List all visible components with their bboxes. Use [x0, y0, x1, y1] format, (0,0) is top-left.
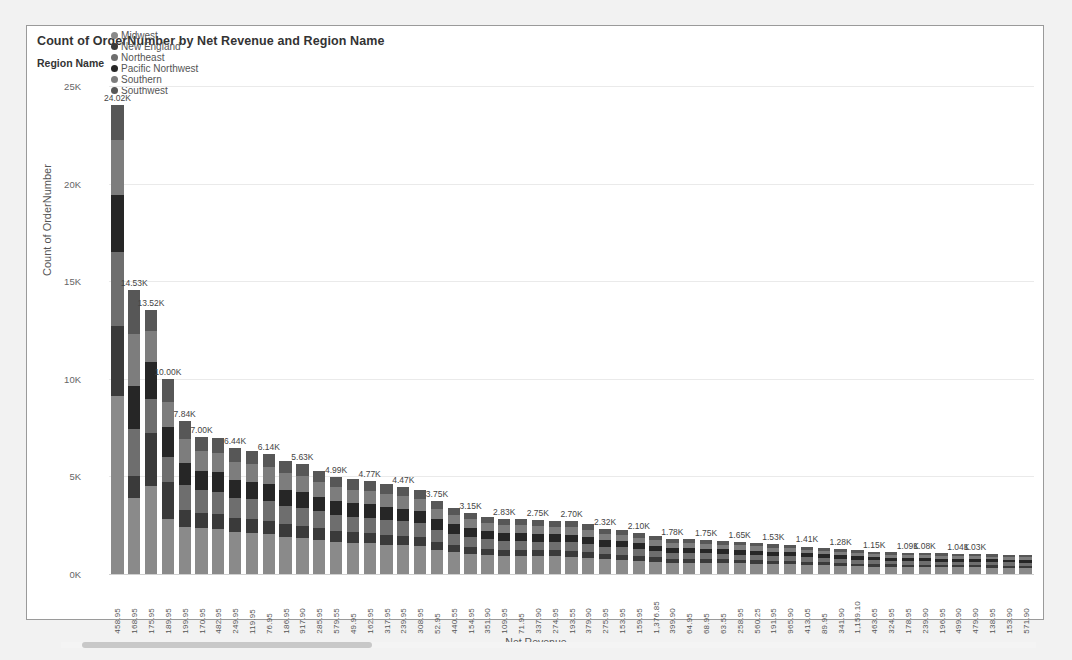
bar-segment-midwest[interactable]: [952, 567, 964, 574]
powerbi-visual-container[interactable]: Count of OrderNumber by Net Revenue and …: [26, 25, 1044, 620]
bar-segment-midwest[interactable]: [666, 563, 678, 574]
bar-segment-midwest[interactable]: [195, 528, 207, 574]
bar-segment-pacific-northwest[interactable]: [481, 531, 493, 539]
bar-segment-midwest[interactable]: [599, 559, 611, 574]
bar-segment-pacific-northwest[interactable]: [195, 471, 207, 491]
bar-segment-southern[interactable]: [549, 527, 561, 535]
bar-column[interactable]: [145, 310, 157, 574]
bar-segment-southwest[interactable]: [111, 105, 123, 140]
bar-segment-southern[interactable]: [313, 482, 325, 497]
bar-segment-southwest[interactable]: [279, 461, 291, 474]
bar-segment-northeast[interactable]: [263, 501, 275, 521]
bar-segment-northeast[interactable]: [481, 539, 493, 548]
bar-segment-southern[interactable]: [532, 526, 544, 534]
bar-segment-pacific-northwest[interactable]: [464, 528, 476, 537]
bar-segment-midwest[interactable]: [851, 566, 863, 574]
bar-column[interactable]: [212, 438, 224, 574]
bar-segment-midwest[interactable]: [364, 543, 376, 574]
bar-segment-pacific-northwest[interactable]: [431, 519, 443, 529]
bar-segment-northeast[interactable]: [347, 517, 359, 533]
bar-segment-midwest[interactable]: [902, 567, 914, 574]
horizontal-scrollbar-thumb[interactable]: [82, 642, 372, 648]
legend-item-northeast[interactable]: Northeast: [111, 52, 198, 63]
bar-column[interactable]: [263, 454, 275, 574]
bar-column[interactable]: [717, 541, 729, 574]
bar-segment-northeast[interactable]: [330, 515, 342, 531]
bar-column[interactable]: [296, 464, 308, 574]
bar-column[interactable]: [313, 471, 325, 574]
bar-segment-northeast[interactable]: [532, 542, 544, 551]
bar-column[interactable]: [885, 552, 897, 574]
bar-column[interactable]: [599, 529, 611, 574]
bar-segment-new-england[interactable]: [313, 528, 325, 540]
bar-segment-pacific-northwest[interactable]: [296, 492, 308, 508]
bar-segment-southwest[interactable]: [212, 438, 224, 452]
bar-segment-northeast[interactable]: [380, 520, 392, 535]
chart-legend[interactable]: Region Name MidwestNew EnglandNortheastP…: [37, 56, 205, 70]
bar-segment-southern[interactable]: [212, 453, 224, 472]
bar-segment-midwest[interactable]: [179, 527, 191, 574]
bar-column[interactable]: [683, 539, 695, 574]
bar-segment-midwest[interactable]: [818, 565, 830, 574]
bar-segment-southwest[interactable]: [414, 490, 426, 500]
bar-column[interactable]: [902, 553, 914, 574]
bar-segment-northeast[interactable]: [565, 542, 577, 551]
bar-segment-pacific-northwest[interactable]: [498, 533, 510, 541]
bar-segment-southwest[interactable]: [330, 477, 342, 488]
bar-segment-new-england[interactable]: [431, 542, 443, 550]
bar-column[interactable]: [195, 437, 207, 574]
bar-column[interactable]: [784, 545, 796, 574]
bar-segment-southern[interactable]: [397, 496, 409, 508]
bar-segment-northeast[interactable]: [162, 457, 174, 482]
bar-segment-southern[interactable]: [582, 530, 594, 537]
bar-segment-southwest[interactable]: [162, 379, 174, 402]
bar-segment-midwest[interactable]: [784, 564, 796, 574]
bar-segment-northeast[interactable]: [599, 547, 611, 554]
bar-column[interactable]: [448, 508, 460, 574]
bar-segment-southwest[interactable]: [179, 421, 191, 439]
bar-segment-midwest[interactable]: [263, 534, 275, 574]
bar-segment-midwest[interactable]: [279, 537, 291, 574]
bar-segment-pacific-northwest[interactable]: [111, 195, 123, 252]
bar-segment-new-england[interactable]: [364, 533, 376, 543]
bar-segment-midwest[interactable]: [347, 543, 359, 574]
bar-segment-northeast[interactable]: [145, 399, 157, 433]
bar-segment-southwest[interactable]: [145, 310, 157, 331]
bar-segment-midwest[interactable]: [448, 552, 460, 574]
bar-segment-northeast[interactable]: [515, 541, 527, 550]
bar-segment-northeast[interactable]: [246, 499, 258, 519]
bar-segment-new-england[interactable]: [347, 532, 359, 543]
bar-segment-midwest[interactable]: [683, 563, 695, 574]
bar-segment-southern[interactable]: [111, 140, 123, 195]
bar-segment-pacific-northwest[interactable]: [380, 507, 392, 520]
bar-segment-northeast[interactable]: [195, 490, 207, 512]
bar-segment-southwest[interactable]: [296, 464, 308, 476]
bar-column[interactable]: [111, 105, 123, 574]
bar-column[interactable]: [649, 536, 661, 574]
bar-segment-northeast[interactable]: [448, 534, 460, 545]
bar-segment-pacific-northwest[interactable]: [448, 524, 460, 533]
bar-segment-midwest[interactable]: [834, 566, 846, 574]
bar-segment-southern[interactable]: [162, 402, 174, 426]
bar-column[interactable]: [700, 540, 712, 574]
bar-segment-pacific-northwest[interactable]: [263, 484, 275, 501]
bar-segment-midwest[interactable]: [633, 561, 645, 574]
bar-segment-southern[interactable]: [380, 494, 392, 507]
bar-column[interactable]: [364, 481, 376, 574]
bar-column[interactable]: [969, 554, 981, 574]
bar-segment-midwest[interactable]: [885, 567, 897, 574]
bar-segment-new-england[interactable]: [296, 526, 308, 538]
bar-column[interactable]: [818, 548, 830, 574]
bar-segment-pacific-northwest[interactable]: [549, 534, 561, 542]
bar-segment-pacific-northwest[interactable]: [179, 463, 191, 485]
bar-segment-southern[interactable]: [128, 334, 140, 385]
legend-item-southern[interactable]: Southern: [111, 74, 198, 85]
bar-segment-new-england[interactable]: [111, 326, 123, 396]
bar-segment-northeast[interactable]: [397, 521, 409, 535]
bar-column[interactable]: [801, 547, 813, 574]
bar-segment-northeast[interactable]: [633, 549, 645, 556]
bar-segment-pacific-northwest[interactable]: [279, 490, 291, 506]
bar-column[interactable]: [347, 479, 359, 574]
bar-column[interactable]: [868, 552, 880, 574]
bar-column[interactable]: [179, 421, 191, 574]
